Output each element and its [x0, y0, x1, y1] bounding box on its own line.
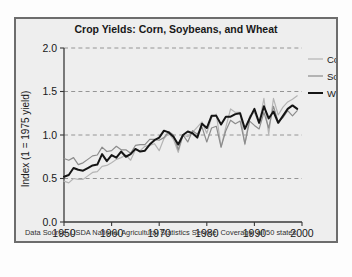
- legend-label-soybeans: Soybeans: [327, 71, 336, 82]
- legend-label-wheat: Wheat: [327, 88, 336, 99]
- chart-title: Crop Yields: Corn, Soybeans, and Wheat: [74, 23, 278, 35]
- y-tick-label: 1.0: [42, 129, 57, 141]
- y-tick-label: 0.5: [42, 172, 57, 184]
- data-series: [64, 96, 297, 183]
- chart-legend: CornSoybeansWheat: [308, 54, 336, 99]
- y-axis-title: Index (1 = 1975 yield): [20, 91, 31, 187]
- y-tick-label: 2.0: [42, 42, 57, 54]
- crop-yields-line-chart: Crop Yields: Corn, Soybeans, and Wheat 0…: [16, 19, 336, 241]
- y-tick-label: 1.5: [42, 85, 57, 97]
- figure-root: Crop Yields: Corn, Soybeans, and Wheat 0…: [0, 0, 352, 277]
- data-source-note: Data Source: USDA National Agricultural …: [25, 228, 298, 237]
- chart-frame: Crop Yields: Corn, Soybeans, and Wheat 0…: [14, 17, 338, 243]
- legend-label-corn: Corn: [327, 54, 336, 65]
- y-tick-label: 0.0: [42, 216, 57, 228]
- y-axis: 0.00.51.01.52.0: [42, 42, 64, 228]
